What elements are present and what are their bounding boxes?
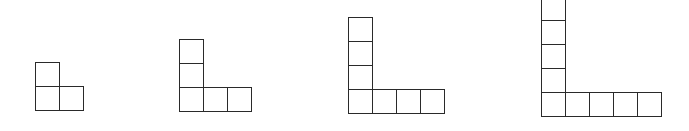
square-horizontal-3 — [589, 92, 614, 117]
square-vertical-1 — [179, 87, 204, 112]
square-vertical-1 — [541, 92, 566, 117]
square-horizontal-3 — [396, 89, 421, 114]
square-vertical-1 — [35, 86, 60, 111]
square-vertical-2 — [35, 62, 60, 87]
square-vertical-5 — [541, 0, 566, 21]
square-horizontal-3 — [227, 87, 252, 112]
square-vertical-2 — [348, 65, 373, 90]
square-horizontal-4 — [420, 89, 445, 114]
square-vertical-1 — [348, 89, 373, 114]
square-vertical-3 — [348, 41, 373, 66]
square-vertical-2 — [541, 68, 566, 93]
square-vertical-3 — [541, 44, 566, 69]
square-vertical-2 — [179, 63, 204, 88]
square-horizontal-4 — [613, 92, 638, 117]
square-horizontal-2 — [203, 87, 228, 112]
square-horizontal-2 — [372, 89, 397, 114]
square-vertical-4 — [348, 17, 373, 42]
square-horizontal-5 — [637, 92, 662, 117]
square-vertical-3 — [179, 39, 204, 64]
square-vertical-4 — [541, 20, 566, 45]
square-horizontal-2 — [59, 86, 84, 111]
square-horizontal-2 — [565, 92, 590, 117]
